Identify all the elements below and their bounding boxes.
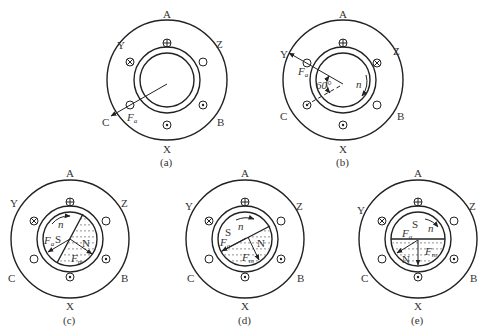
phase-label-X: X [241, 300, 249, 312]
phase-label-Z: Z [216, 38, 223, 50]
phase-label-B: B [297, 272, 304, 284]
conductor-Y-cross-icon [30, 217, 38, 225]
stator-inner-ring [134, 47, 200, 113]
conductor-B-dot-icon [277, 255, 285, 263]
phase-label-A: A [241, 167, 249, 179]
conductor-A-cross-icon [414, 198, 422, 206]
phase-label-C: C [280, 110, 287, 122]
conductor-B-dot-icon [102, 255, 110, 263]
panel-e: n S N Fa Fm A Z Y C B X (e) [357, 167, 477, 327]
phase-label-A: A [66, 167, 74, 179]
pole-label-N: N [257, 237, 265, 249]
fa-label: Fa [219, 236, 231, 250]
panel-a: Fa A Z Y C B X (a) [102, 8, 227, 169]
conductor-Z-cross-icon [373, 59, 381, 67]
panel-c: n S N Fa Fm A Z Y C B X (c) [8, 167, 129, 327]
phase-label-Y: Y [185, 200, 193, 212]
panel-d: n S N Fa Fm A Z Y C B X (d) [185, 167, 304, 327]
phase-label-B: B [470, 272, 477, 284]
phase-label-C: C [102, 116, 109, 128]
stator-outer-circle [283, 20, 403, 140]
conductor-Y-cross-icon [126, 58, 134, 66]
phase-label-A: A [414, 167, 422, 179]
pole-label-N: N [82, 237, 90, 249]
phase-label-A: A [339, 8, 347, 20]
pole-label-S: S [55, 233, 61, 245]
phase-label-X: X [414, 300, 422, 312]
conductor-Z-empty-icon [102, 217, 110, 225]
fa-label: Fa [126, 111, 138, 125]
phase-label-Z: Z [469, 200, 476, 212]
phase-label-Z: Z [296, 200, 303, 212]
conductor-A-cross-icon [339, 39, 347, 47]
conductor-A-cross-icon [163, 39, 171, 47]
speed-label: n [356, 78, 362, 90]
caption-d: (d) [238, 314, 251, 327]
phase-label-C: C [361, 272, 368, 284]
rotor-circle [140, 53, 194, 107]
conductor-A-cross-icon [241, 198, 249, 206]
phase-label-Y: Y [357, 204, 365, 216]
phase-label-C: C [8, 272, 15, 284]
conductor-B-empty-icon [373, 101, 381, 109]
fa-label: Fa [401, 227, 413, 241]
phase-label-A: A [163, 8, 171, 20]
machine-diagram-figure: Fa A Z Y C B X (a) [0, 0, 491, 335]
phase-label-Y: Y [280, 48, 288, 60]
angle-label: 60° [316, 79, 332, 91]
phase-label-Z: Z [121, 197, 128, 209]
stator-outer-circle [107, 20, 227, 140]
conductor-C-empty-icon [378, 255, 386, 263]
caption-e: (e) [411, 314, 424, 327]
conductor-X-dot-icon [241, 273, 249, 281]
conductor-X-dot-icon [339, 121, 347, 129]
conductor-X-dot-icon [414, 273, 422, 281]
pole-label-N: N [402, 253, 410, 265]
conductor-X-dot-icon [66, 273, 74, 281]
conductor-C-dot-icon [303, 101, 311, 109]
conductor-Z-empty-icon [450, 217, 458, 225]
conductor-C-empty-icon [30, 255, 38, 263]
phase-label-Y: Y [117, 39, 125, 51]
phase-label-X: X [163, 143, 171, 155]
panel-b: 60° Fa n A Z Y C B X (b) [280, 8, 404, 169]
conductor-Y-cross-icon [378, 217, 386, 225]
conductor-Z-empty-icon [277, 217, 285, 225]
phase-label-Y: Y [10, 197, 18, 209]
caption-b: (b) [336, 156, 349, 169]
fa-label: Fa [43, 234, 55, 248]
phase-label-X: X [339, 143, 347, 155]
conductor-C-empty-icon [205, 255, 213, 263]
conductor-B-dot-icon [450, 255, 458, 263]
phase-label-B: B [217, 116, 224, 128]
phase-label-B: B [121, 272, 128, 284]
speed-label: n [428, 222, 434, 234]
speed-label: n [238, 220, 244, 232]
conductor-B-dot-icon [199, 101, 207, 109]
conductor-Z-empty-icon [199, 58, 207, 66]
caption-a: (a) [160, 156, 173, 169]
conductor-A-cross-icon [66, 198, 74, 206]
speed-label: n [58, 218, 64, 230]
phase-label-C: C [187, 272, 194, 284]
conductor-X-dot-icon [163, 121, 171, 129]
conductor-Y-cross-icon [205, 217, 213, 225]
phase-label-B: B [397, 110, 404, 122]
pole-label-S: S [412, 218, 418, 230]
phase-label-Z: Z [393, 45, 400, 57]
phase-label-X: X [66, 300, 74, 312]
caption-c: (c) [63, 314, 76, 327]
